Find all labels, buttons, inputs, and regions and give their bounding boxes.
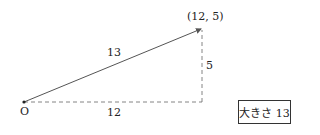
point-label: (12, 5) — [187, 11, 224, 22]
vector-arrow — [24, 29, 201, 102]
origin-dot — [22, 100, 25, 103]
hypotenuse-label: 13 — [107, 47, 121, 58]
vertical-length-label: 5 — [206, 60, 213, 71]
origin-label: O — [20, 106, 29, 117]
horizontal-length-label: 12 — [107, 107, 121, 118]
magnitude-box: 大きさ 13 — [238, 100, 291, 124]
